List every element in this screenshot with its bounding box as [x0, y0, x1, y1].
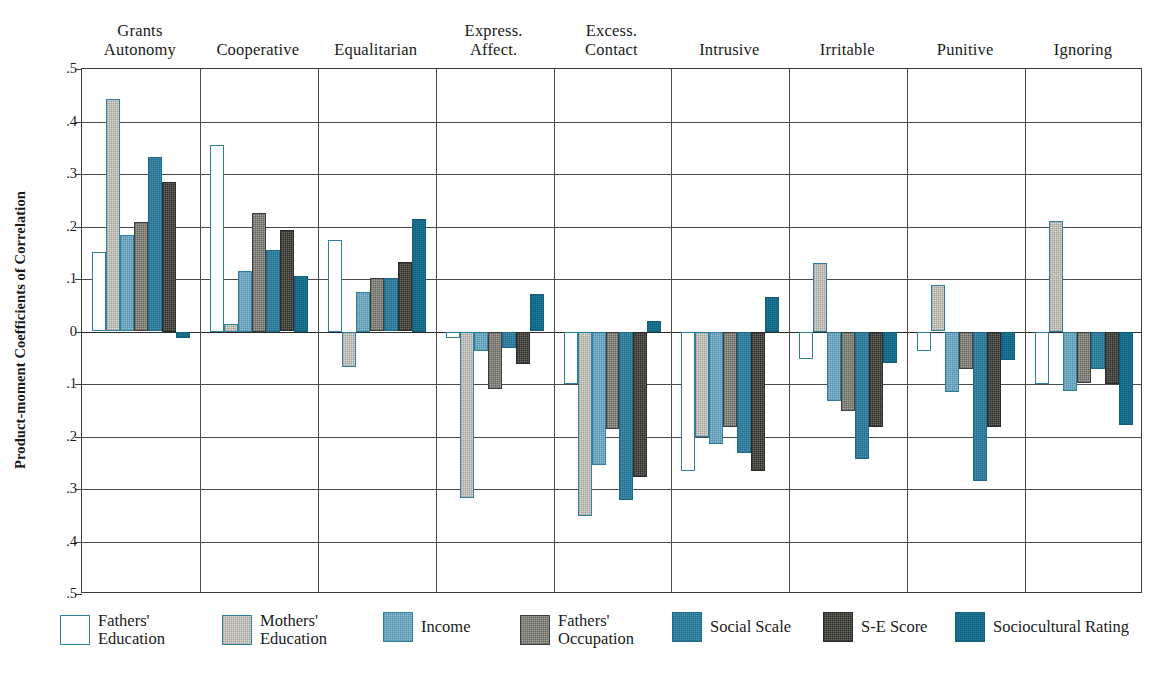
bar-4-6 — [516, 332, 530, 365]
y-tick-mark — [75, 69, 82, 70]
bar-4-5 — [502, 332, 516, 349]
legend-item-7[interactable]: Sociocultural Rating — [955, 612, 1129, 642]
legend-label: Social Scale — [710, 618, 791, 636]
legend-item-2[interactable]: Mothers' Education — [222, 612, 327, 649]
bar-9-6 — [1105, 332, 1119, 385]
plot-area — [81, 68, 1142, 593]
bar-9-1 — [1035, 332, 1049, 385]
bar-1-2 — [106, 99, 120, 332]
bar-5-6 — [633, 332, 647, 478]
y-tick-label: .3 — [43, 481, 77, 496]
legend-swatch-icon — [823, 612, 853, 642]
y-tick-mark — [75, 489, 82, 490]
bar-4-1 — [446, 332, 460, 338]
legend-item-4[interactable]: Fathers' Occupation — [520, 612, 634, 649]
legend-label: Income — [421, 618, 470, 636]
column-header-5: Excess. Contact — [553, 0, 671, 64]
gridline-vertical — [318, 69, 319, 592]
legend-swatch-icon — [222, 615, 252, 645]
y-tick-mark — [75, 437, 82, 438]
bar-3-3 — [356, 292, 370, 331]
y-tick-label: .4 — [43, 113, 77, 128]
bar-1-3 — [120, 235, 134, 331]
chart-figure: Product-moment Coefficients of Correlati… — [0, 0, 1163, 685]
bar-3-6 — [398, 262, 412, 331]
bar-2-4 — [252, 213, 266, 331]
bar-7-6 — [869, 332, 883, 428]
bar-6-4 — [723, 332, 737, 428]
gridline-horizontal — [82, 227, 1141, 228]
bar-2-1 — [210, 145, 224, 331]
gridline-vertical — [1025, 69, 1026, 592]
column-header-1: Grants Autonomy — [81, 0, 199, 64]
bar-8-3 — [945, 332, 959, 392]
bar-3-7 — [412, 219, 426, 332]
column-header-7: Irritable — [788, 0, 906, 64]
bar-8-6 — [987, 332, 1001, 428]
y-tick-label: .3 — [43, 166, 77, 181]
legend-item-6[interactable]: S-E Score — [823, 612, 927, 642]
bar-6-5 — [737, 332, 751, 454]
y-tick-mark — [75, 594, 82, 595]
bar-9-5 — [1091, 332, 1105, 370]
y-tick-label: .5 — [43, 586, 77, 601]
bar-1-4 — [134, 222, 148, 332]
bar-5-1 — [564, 332, 578, 385]
bar-1-7 — [176, 332, 190, 339]
y-tick-mark — [75, 279, 82, 280]
bar-4-7 — [530, 294, 544, 332]
gridline-vertical — [789, 69, 790, 592]
y-axis-tick-labels: .5.4.3.2.10.1.2.3.4.5 — [33, 68, 77, 593]
gridline-vertical — [907, 69, 908, 592]
bar-4-4 — [488, 332, 502, 390]
bar-5-5 — [619, 332, 633, 500]
y-tick-mark — [75, 174, 82, 175]
bar-4-2 — [460, 332, 474, 499]
y-tick-mark — [75, 122, 82, 123]
y-tick-label: .5 — [43, 61, 77, 76]
bar-5-7 — [647, 321, 661, 332]
gridline-vertical — [200, 69, 201, 592]
gridline-horizontal — [82, 542, 1141, 543]
bar-2-2 — [224, 324, 238, 332]
bar-3-5 — [384, 278, 398, 332]
column-header-4: Express. Affect. — [435, 0, 553, 64]
column-header-3: Equalitarian — [317, 0, 435, 64]
bar-5-3 — [592, 332, 606, 466]
bar-1-6 — [162, 182, 176, 332]
bar-2-7 — [294, 276, 308, 331]
bar-7-5 — [855, 332, 869, 459]
bar-9-2 — [1049, 221, 1063, 331]
gridline-horizontal — [82, 122, 1141, 123]
column-header-9: Ignoring — [1024, 0, 1142, 64]
legend-item-1[interactable]: Fathers' Education — [60, 612, 165, 649]
gridline-vertical — [554, 69, 555, 592]
bar-1-5 — [148, 157, 162, 331]
bar-7-2 — [813, 263, 827, 331]
bar-8-7 — [1001, 332, 1015, 361]
bar-3-4 — [370, 278, 384, 332]
bar-5-4 — [606, 332, 620, 429]
bar-7-4 — [841, 332, 855, 412]
chart-legend: Fathers' EducationMothers' EducationInco… — [0, 612, 1163, 674]
y-tick-label: 0 — [43, 323, 77, 338]
bar-1-1 — [92, 252, 106, 331]
legend-label: Fathers' Education — [98, 612, 165, 649]
y-tick-label: .1 — [43, 271, 77, 286]
y-tick-label: .1 — [43, 376, 77, 391]
bar-8-4 — [959, 332, 973, 370]
bar-4-3 — [474, 332, 488, 352]
bar-8-5 — [973, 332, 987, 482]
column-headers: Grants AutonomyCooperativeEqualitarianEx… — [81, 0, 1142, 68]
legend-item-5[interactable]: Social Scale — [672, 612, 791, 642]
bar-6-3 — [709, 332, 723, 445]
column-header-6: Intrusive — [670, 0, 788, 64]
legend-label: Mothers' Education — [260, 612, 327, 649]
legend-item-3[interactable]: Income — [383, 612, 470, 642]
legend-swatch-icon — [672, 612, 702, 642]
legend-label: Sociocultural Rating — [993, 618, 1129, 636]
bar-8-2 — [931, 285, 945, 331]
legend-swatch-icon — [60, 615, 90, 645]
gridline-horizontal — [82, 489, 1141, 490]
y-tick-label: .2 — [43, 428, 77, 443]
